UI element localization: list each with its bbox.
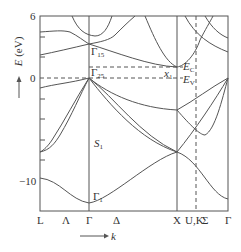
y-tick-0: 0 <box>30 73 36 84</box>
k-arrow-head-icon <box>104 234 109 239</box>
label-gamma25: Γ25 <box>91 67 104 80</box>
label-x1: x1 <box>164 68 172 81</box>
x-tick-sigma: Σ <box>202 215 208 226</box>
label-gamma1: Γ1 <box>93 191 103 204</box>
y-tick-minus10: −10 <box>19 176 36 187</box>
label-gamma15: Γ15 <box>91 46 104 59</box>
x-tick-gamma-end: Γ <box>225 215 231 226</box>
y-tick-6: 6 <box>30 11 36 22</box>
bands <box>40 16 228 203</box>
x-tick-lambda: Λ <box>62 215 70 226</box>
label-s1: S1 <box>94 138 103 151</box>
x-tick-X: X <box>173 215 181 226</box>
x-tick-gamma: Γ <box>86 215 92 226</box>
e-arrow-head-icon <box>17 76 22 82</box>
y-ticks <box>40 37 45 160</box>
x-axis-label: k <box>111 231 116 242</box>
x-tick-L: L <box>37 215 44 226</box>
x-tick-delta: Δ <box>113 215 120 226</box>
label-ev: EV <box>183 74 195 87</box>
y-axis-label: E (eV) <box>13 37 24 67</box>
x-tick-UK: U,K <box>185 215 204 226</box>
